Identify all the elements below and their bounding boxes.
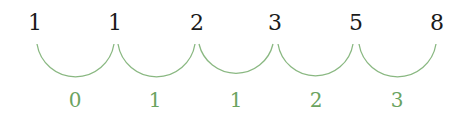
difference-3: 1: [230, 88, 243, 112]
sequence-term-6: 8: [430, 10, 444, 36]
sequence-term-1: 1: [28, 10, 42, 36]
difference-2: 1: [149, 88, 162, 112]
arc-2: [199, 44, 273, 73]
sequence-term-2: 1: [108, 10, 122, 36]
arc-4: [359, 44, 436, 77]
sequence-term-3: 2: [190, 10, 204, 36]
difference-4: 2: [310, 88, 323, 112]
sequence-term-4: 3: [268, 10, 282, 36]
difference-5: 3: [391, 88, 404, 112]
arc-3: [278, 44, 353, 76]
sequence-term-5: 5: [349, 10, 363, 36]
arc-0: [37, 44, 114, 77]
arc-1: [118, 44, 195, 77]
difference-1: 0: [69, 88, 82, 112]
